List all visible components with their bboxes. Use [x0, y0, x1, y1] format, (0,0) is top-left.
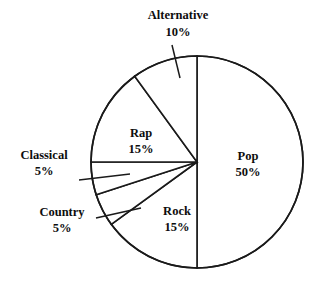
- slice-label-classical: Classical: [20, 148, 68, 162]
- slice-percent-pop: 50%: [236, 165, 261, 179]
- pie-chart-figure: Pop50%Rock15%Country5%Classical5%Rap15%A…: [0, 0, 321, 286]
- slice-label-country: Country: [39, 205, 85, 219]
- slice-label-rap: Rap: [130, 126, 152, 140]
- slice-percent-rock: 15%: [165, 220, 190, 234]
- slice-label-rock: Rock: [163, 204, 191, 218]
- slice-label-pop: Pop: [238, 149, 259, 163]
- slice-label-alternative: Alternative: [148, 8, 209, 22]
- slice-percent-alternative: 10%: [166, 25, 191, 39]
- slice-percent-country: 5%: [53, 221, 72, 235]
- slice-percent-rap: 15%: [129, 142, 154, 156]
- slice-percent-classical: 5%: [35, 164, 54, 178]
- pie-slices-group: [91, 56, 303, 268]
- pie-chart-canvas: Pop50%Rock15%Country5%Classical5%Rap15%A…: [0, 0, 321, 286]
